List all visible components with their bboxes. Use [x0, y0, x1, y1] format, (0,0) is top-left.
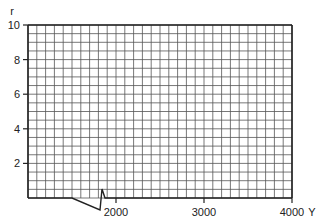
x-tick-label: 4000	[280, 206, 304, 218]
x-axis-label: Y	[308, 206, 316, 218]
y-axis-label: r	[10, 5, 14, 17]
y-tick-label: 8	[14, 54, 20, 66]
y-tick-label: 10	[8, 19, 20, 31]
chart: 246810200030004000rY	[0, 0, 320, 220]
y-tick-label: 4	[14, 123, 20, 135]
y-tick-label: 6	[14, 88, 20, 100]
y-tick-label: 2	[14, 157, 20, 169]
grid-plot: 246810200030004000rY	[0, 0, 320, 220]
x-tick-label: 2000	[104, 206, 128, 218]
x-tick-label: 3000	[192, 206, 216, 218]
